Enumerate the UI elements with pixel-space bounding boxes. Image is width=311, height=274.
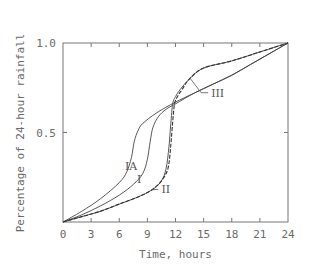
curve-labels: IAIIIIII xyxy=(125,79,224,197)
curve-label-iii: III xyxy=(211,87,224,100)
x-axis-title: Time, hours xyxy=(139,248,212,261)
x-tick-label: 12 xyxy=(169,228,182,241)
x-tick-label: 9 xyxy=(144,228,151,241)
y-tick-labels: 0.51.0 xyxy=(36,37,56,140)
x-tick-label: 0 xyxy=(60,228,67,241)
x-tick-label: 3 xyxy=(88,228,95,241)
x-tick-label: 24 xyxy=(281,228,295,241)
x-tick-label: 15 xyxy=(197,228,210,241)
x-tick-label: 18 xyxy=(225,228,238,241)
y-tick-label: 1.0 xyxy=(36,37,56,50)
y-axis-title: Percentage of 24-hour rainfall xyxy=(14,34,27,233)
curve-type-iii xyxy=(63,43,288,222)
curve-label-i: I xyxy=(137,173,141,186)
y-tick-label: 0.5 xyxy=(36,127,56,140)
rainfall-distribution-chart: 03691215182124 0.51.0 IAIIIIII Time, hou… xyxy=(0,0,311,274)
curve-type-i xyxy=(63,43,288,222)
curve-label-ia: IA xyxy=(125,160,138,173)
x-tick-labels: 03691215182124 xyxy=(60,228,295,241)
curve-type-ia xyxy=(63,43,288,222)
plot-frame xyxy=(63,43,288,222)
leader-line-iii xyxy=(191,79,209,93)
x-tick-label: 21 xyxy=(253,228,266,241)
curve-label-ii: II xyxy=(161,183,170,196)
curve-type-ii xyxy=(63,43,288,222)
axis-ticks xyxy=(63,43,288,222)
curves xyxy=(63,43,288,222)
x-tick-label: 6 xyxy=(116,228,123,241)
